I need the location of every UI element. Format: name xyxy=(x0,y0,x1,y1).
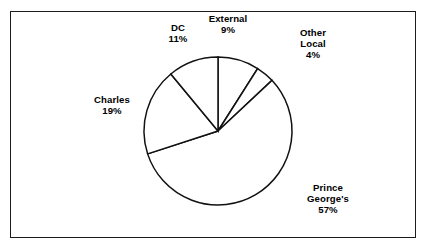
pie-slices-group xyxy=(144,57,292,205)
pie-label-charles-name: Charles xyxy=(79,94,145,105)
pie-label-other-local-value: 4% xyxy=(282,49,344,60)
pie-label-prince-georges-name2: George's xyxy=(289,193,367,204)
pie-label-prince-georges-value: 57% xyxy=(289,204,367,215)
pie-label-other-local-name2: Local xyxy=(282,38,344,49)
pie-label-external-value: 9% xyxy=(196,24,260,35)
pie-label-other-local-name: Other xyxy=(282,27,344,38)
pie-label-external: External 9% xyxy=(196,13,260,35)
pie-chart-figure: DC 11% External 9% Other Local 4% Charle… xyxy=(0,0,426,250)
pie-label-other-local: Other Local 4% xyxy=(282,27,344,61)
pie-label-charles-value: 19% xyxy=(79,105,145,116)
pie-label-prince-georges: Prince George's 57% xyxy=(289,182,367,216)
pie-label-charles: Charles 19% xyxy=(79,94,145,116)
pie-label-external-name: External xyxy=(196,13,260,24)
pie-label-prince-georges-name: Prince xyxy=(289,182,367,193)
